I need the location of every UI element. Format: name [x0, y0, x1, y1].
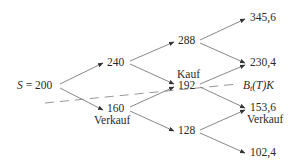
node-288: 288 — [178, 35, 195, 47]
node-160-action: Verkauf — [94, 115, 130, 127]
node-153-6: 153,6 — [250, 102, 276, 114]
threshold-B: B — [243, 79, 250, 91]
edge-160-128 — [130, 111, 174, 131]
edge-160-192 — [130, 87, 174, 107]
edge-240-192 — [130, 64, 174, 84]
threshold-label: Bt(T)K — [243, 80, 274, 93]
node-153-6-action: Verkauf — [247, 114, 283, 126]
threshold-rest: (T)K — [252, 79, 274, 91]
node-102-4: 102,4 — [250, 147, 276, 159]
edge-128-153 — [200, 110, 245, 130]
root-value: = 200 — [23, 79, 53, 91]
edge-192-230 — [200, 65, 245, 84]
node-128: 128 — [178, 125, 195, 137]
edge-240-288 — [130, 42, 174, 61]
node-230-4: 230,4 — [250, 57, 276, 69]
edge-288-230 — [200, 43, 245, 63]
root-node-label: S = 200 — [17, 80, 52, 92]
edge-288-345 — [200, 19, 245, 40]
edge-192-153 — [200, 87, 245, 108]
node-240: 240 — [107, 57, 124, 69]
threshold-dashed-line — [45, 84, 238, 103]
node-192: 192 — [178, 80, 195, 92]
edge-root-up — [60, 63, 103, 84]
edge-128-102 — [200, 133, 245, 153]
node-160: 160 — [107, 103, 124, 115]
binomial-tree-diagram: S = 200 240 160 Verkauf 288 Kauf 192 128… — [0, 0, 298, 165]
node-345-6: 345,6 — [250, 12, 276, 24]
